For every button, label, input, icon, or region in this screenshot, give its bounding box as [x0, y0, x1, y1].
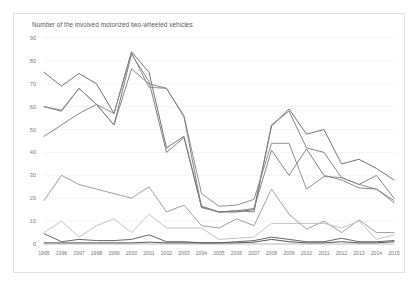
series-line: [44, 175, 394, 232]
y-axis-tick-label: 10: [20, 218, 36, 224]
y-axis-tick-label: 80: [20, 58, 36, 64]
x-axis-tick-label: 2015: [383, 250, 405, 256]
chart-plot-area: 0102030405060708090 19951996199719981999…: [14, 14, 406, 274]
gridlines: [44, 38, 394, 244]
y-axis-tick-label: 40: [20, 149, 36, 155]
y-axis-tick-label: 0: [20, 241, 36, 247]
y-axis-tick-label: 50: [20, 127, 36, 133]
y-axis-tick-label: 70: [20, 81, 36, 87]
series-line: [44, 54, 394, 212]
chart-svg: [14, 14, 406, 274]
series-line: [44, 69, 394, 212]
y-axis-tick-label: 60: [20, 104, 36, 110]
series-lines: [44, 52, 394, 243]
y-axis-tick-label: 20: [20, 195, 36, 201]
y-axis-tick-label: 90: [20, 35, 36, 41]
y-axis-tick-label: 30: [20, 172, 36, 178]
series-line: [44, 214, 394, 239]
series-line: [44, 52, 394, 212]
series-line: [44, 239, 394, 242]
chart-card: Number of the involved motorized two-whe…: [13, 13, 405, 273]
